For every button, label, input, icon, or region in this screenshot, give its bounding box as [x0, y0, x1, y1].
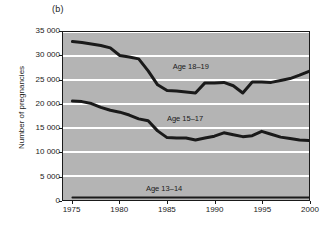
x-axis-tick-label: 1985	[150, 205, 184, 214]
series-label: Age 15–17	[167, 114, 203, 123]
x-axis-tick-mark	[119, 201, 120, 204]
chart-figure: (b) Number of pregnancies 05 00010 00015…	[0, 0, 326, 231]
series-label: Age 18–19	[173, 62, 209, 71]
x-axis-tick-mark	[167, 201, 168, 204]
y-axis-tick-label: 35 000	[14, 26, 60, 35]
panel-label: (b)	[52, 4, 64, 14]
x-axis-tick-label: 1975	[55, 205, 89, 214]
x-axis-tick-label: 1980	[102, 205, 136, 214]
y-axis-tick-label: 10 000	[14, 147, 60, 156]
x-axis-tick-mark	[72, 201, 73, 204]
x-axis-tick-mark	[215, 201, 216, 204]
y-axis-tick-mark	[59, 201, 62, 202]
x-axis-tick-label: 1990	[198, 205, 232, 214]
series-label: Age 13–14	[146, 184, 182, 193]
x-axis-tick-mark	[310, 201, 311, 204]
y-axis-tick-label: 30 000	[14, 50, 60, 59]
y-axis-tick-label: 0	[14, 196, 60, 205]
x-axis-tick-label: 1995	[245, 205, 279, 214]
x-axis-tick-mark	[262, 201, 263, 204]
y-axis-tick-label: 20 000	[14, 99, 60, 108]
x-axis-tick-label: 2000	[293, 205, 326, 214]
y-axis-tick-label: 25 000	[14, 75, 60, 84]
plot-area: Age 18–19Age 15–17Age 13–14	[62, 31, 310, 201]
gridlines	[63, 32, 309, 176]
y-axis-tick-label: 15 000	[14, 123, 60, 132]
y-axis-tick-label: 5 000	[14, 172, 60, 181]
